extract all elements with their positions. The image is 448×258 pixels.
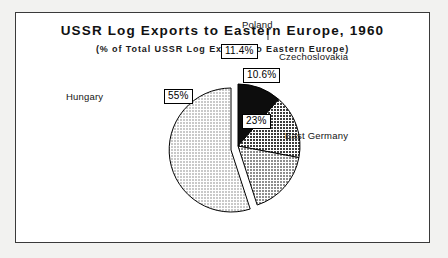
slice-value-czechoslovakia: 10.6% <box>243 68 280 83</box>
slice-label-poland: Poland <box>242 19 273 30</box>
slice-value-hungary: 55% <box>164 89 193 104</box>
chart-frame: USSR Log Exports to Eastern Europe, 1960… <box>15 12 430 243</box>
slice-value-poland: 11.4% <box>221 44 258 59</box>
slice-value-east-germany: 23% <box>242 114 271 129</box>
slice-label-east-germany: East Germany <box>285 130 348 141</box>
slice-label-hungary: Hungary <box>66 91 103 102</box>
pie-chart-plot: Poland Czechoslovakia East Germany Hunga… <box>16 13 431 244</box>
slice-label-czechoslovakia: Czechoslovakia <box>279 51 348 62</box>
